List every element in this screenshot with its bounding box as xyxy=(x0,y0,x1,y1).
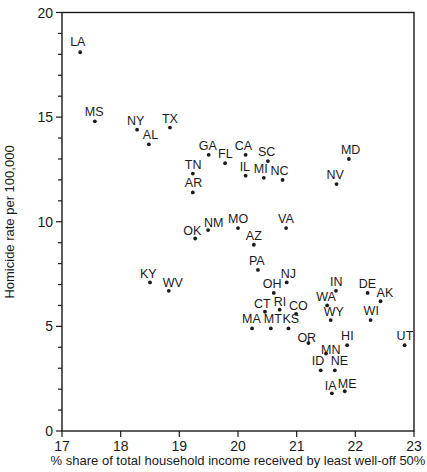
point-label: NM xyxy=(204,216,223,230)
data-point-tn: TN xyxy=(185,158,202,176)
point-label: WV xyxy=(163,276,184,290)
data-point-id: ID xyxy=(312,354,325,372)
point-label: AK xyxy=(377,286,394,300)
x-tick-label: 20 xyxy=(230,438,246,454)
point-marker xyxy=(335,182,339,186)
point-label: WY xyxy=(324,305,345,319)
y-axis-title: Homicide rate per 100,000 xyxy=(2,145,17,298)
point-marker xyxy=(366,291,370,295)
data-point-or: OR xyxy=(297,331,316,345)
data-point-ok: OK xyxy=(183,224,202,240)
data-point-fl: FL xyxy=(218,147,233,165)
point-label: MA xyxy=(242,312,261,326)
data-point-ms: MS xyxy=(85,105,104,123)
point-marker xyxy=(347,157,351,161)
point-label: CO xyxy=(289,299,308,313)
point-label: PA xyxy=(249,254,265,268)
data-point-wi: WI xyxy=(364,304,379,322)
point-label: MS xyxy=(85,105,104,119)
point-label: KS xyxy=(282,312,299,326)
data-point-mo: MO xyxy=(228,212,248,230)
data-point-mt: MT xyxy=(264,312,282,330)
point-marker xyxy=(369,318,373,322)
point-label: DE xyxy=(359,277,376,291)
point-label: WI xyxy=(364,304,379,318)
data-point-ut: UT xyxy=(397,329,414,347)
point-label: NV xyxy=(327,168,345,182)
point-label: OH xyxy=(263,277,282,291)
data-point-hi: HI xyxy=(341,329,354,347)
point-label: ME xyxy=(338,377,357,391)
point-label: HI xyxy=(341,329,354,343)
point-label: OK xyxy=(183,224,202,238)
point-marker xyxy=(78,50,82,54)
point-marker xyxy=(319,368,323,372)
y-tick-label: 20 xyxy=(37,5,53,21)
data-point-va: VA xyxy=(278,212,294,230)
point-label: KY xyxy=(140,267,157,281)
point-label: NC xyxy=(271,164,289,178)
data-point-pa: PA xyxy=(249,254,265,272)
data-point-ma: MA xyxy=(242,312,261,330)
y-tick-label: 0 xyxy=(45,423,53,439)
point-marker xyxy=(333,368,337,372)
point-label: IN xyxy=(330,275,343,289)
point-marker xyxy=(262,176,266,180)
point-marker xyxy=(223,161,227,165)
data-point-me: ME xyxy=(338,377,357,393)
data-point-nc: NC xyxy=(271,164,289,182)
point-label: FL xyxy=(218,147,233,161)
data-point-il: IL xyxy=(240,160,250,178)
point-label: AR xyxy=(185,176,202,190)
point-label: OR xyxy=(297,331,316,345)
data-point-ak: AK xyxy=(377,286,394,303)
point-marker xyxy=(168,126,172,130)
point-label: ID xyxy=(312,354,325,368)
data-point-ar: AR xyxy=(185,176,202,194)
point-label: AL xyxy=(143,128,158,142)
data-point-ga: GA xyxy=(199,139,218,157)
point-label: CA xyxy=(235,139,253,153)
data-points: LAMSNYALTXGAFLCASCILMINCTNARMDNVNMOKMOAZ… xyxy=(70,35,413,395)
point-label: RI xyxy=(274,295,287,309)
point-label: IA xyxy=(325,379,337,393)
data-point-la: LA xyxy=(70,35,86,54)
point-marker xyxy=(135,128,139,132)
data-point-oh: OH xyxy=(263,277,282,295)
data-point-nv: NV xyxy=(327,168,345,186)
y-tick-label: 15 xyxy=(37,109,53,125)
point-label: VA xyxy=(278,212,294,226)
point-marker xyxy=(244,153,248,157)
data-point-az: AZ xyxy=(246,229,262,247)
data-point-ky: KY xyxy=(140,267,157,284)
data-point-ct: CT xyxy=(254,297,271,314)
x-tick-label: 22 xyxy=(348,438,364,454)
point-label: NY xyxy=(127,114,145,128)
point-marker xyxy=(191,191,195,195)
point-marker xyxy=(256,268,260,272)
point-marker xyxy=(281,178,285,182)
point-label: TX xyxy=(162,112,179,126)
x-tick-label: 21 xyxy=(289,438,305,454)
data-point-md: MD xyxy=(341,143,360,161)
point-marker xyxy=(236,226,240,230)
data-point-nm: NM xyxy=(204,216,223,232)
point-label: MI xyxy=(254,162,268,176)
point-label: AZ xyxy=(246,229,262,243)
y-tick-label: 10 xyxy=(37,214,53,230)
point-label: MD xyxy=(341,143,360,157)
point-label: NE xyxy=(331,354,348,368)
x-tick-label: 17 xyxy=(54,438,70,454)
data-point-ca: CA xyxy=(235,139,253,157)
y-axis: 05101520 xyxy=(37,5,62,440)
point-label: LA xyxy=(70,35,86,49)
point-marker xyxy=(147,142,151,146)
x-axis: 17181920212223 xyxy=(54,431,422,454)
data-point-de: DE xyxy=(359,277,376,295)
point-marker xyxy=(93,119,97,123)
point-marker xyxy=(244,174,248,178)
scatter-chart: 05101520 17181920212223 LAMSNYALTXGAFLCA… xyxy=(0,0,427,472)
point-marker xyxy=(284,226,288,230)
point-label: MT xyxy=(264,312,282,326)
point-label: NJ xyxy=(281,267,296,281)
